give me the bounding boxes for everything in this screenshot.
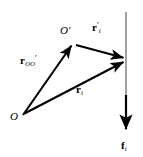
r-oo-prime-subscript: OO bbox=[25, 60, 35, 68]
origin-prime-letter: O bbox=[60, 24, 68, 36]
vector-label-r-i-prime: r′i bbox=[92, 22, 101, 33]
vector-diagram-figure: O O′ rOO′ r′i ri fi bbox=[0, 0, 143, 157]
vector-label-f-i: fi bbox=[121, 140, 127, 151]
r-i-prime-subscript: i bbox=[99, 27, 101, 35]
vector-r-i-prime bbox=[76, 45, 124, 58]
vector-r-i bbox=[25, 62, 124, 114]
origin-prime-mark: ′ bbox=[68, 24, 70, 36]
r-oo-prime-mark: ′ bbox=[35, 53, 37, 63]
vector-label-r-oo-prime: rOO′ bbox=[20, 55, 37, 66]
diagram-canvas bbox=[0, 0, 143, 157]
point-label-origin: O bbox=[10, 111, 18, 122]
f-i-subscript: i bbox=[125, 145, 127, 153]
origin-letter: O bbox=[10, 110, 18, 122]
vector-label-r-i: ri bbox=[76, 84, 83, 95]
r-i-subscript: i bbox=[81, 89, 83, 97]
point-label-origin-prime: O′ bbox=[60, 25, 70, 36]
